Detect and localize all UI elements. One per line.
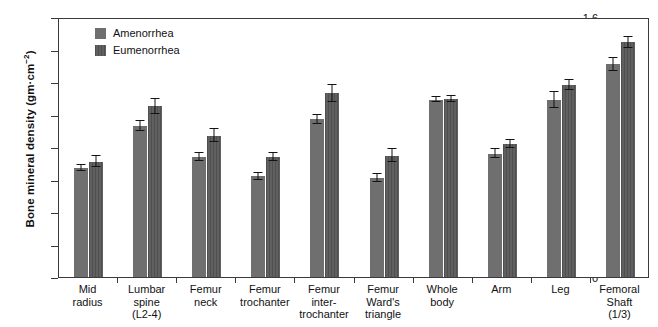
bar-eumenorrhea (562, 85, 576, 277)
error-bar-cap-top (549, 91, 558, 92)
y-tick-mark (51, 148, 58, 149)
error-bar-cap-top (564, 79, 573, 80)
error-bar-cap-top (608, 57, 617, 58)
y-tick-mark (51, 278, 58, 279)
bar-eumenorrhea (148, 106, 162, 277)
legend-label-eumenorrhea: Eumenorrhea (113, 44, 180, 56)
error-bar-cap-bottom (151, 113, 160, 114)
error-bar-cap-top (505, 139, 514, 140)
bone-mineral-density-bar-chart: Bone mineral density (gm·cm−2) 00.20.40.… (0, 0, 658, 327)
legend-label-amenorrhea: Amenorrhea (113, 27, 174, 39)
bar-eumenorrhea (325, 93, 339, 277)
bar-amenorrhea (74, 168, 88, 277)
error-bar-cap-top (313, 114, 322, 115)
error-bar-cap-top (372, 173, 381, 174)
error-bar-cap-top (328, 84, 337, 85)
error-bar-cap-bottom (549, 107, 558, 108)
y-tick-mark (51, 116, 58, 117)
error-bar-cap-top (431, 96, 440, 97)
legend-swatch-eumenorrhea-icon (95, 45, 106, 56)
error-bar-cap-top (269, 152, 278, 153)
error-bar-cap-bottom (210, 141, 219, 142)
bar-eumenorrhea (207, 136, 221, 277)
y-tick-mark (51, 213, 58, 214)
bar-amenorrhea (133, 126, 147, 277)
error-bar-cap-bottom (313, 123, 322, 124)
error-bar-stem (332, 85, 333, 101)
bar-eumenorrhea (444, 99, 458, 277)
legend-item-eumenorrhea: Eumenorrhea (95, 44, 180, 56)
bar-amenorrhea (251, 176, 265, 277)
bar-amenorrhea (429, 100, 443, 277)
bar-group (370, 17, 399, 277)
bar-group (310, 17, 339, 277)
error-bar-cap-bottom (136, 130, 145, 131)
bar-group (606, 17, 635, 277)
error-bar-cap-top (136, 120, 145, 121)
error-bar-cap-bottom (328, 101, 337, 102)
error-bar-cap-bottom (446, 101, 455, 102)
error-bar-cap-bottom (269, 160, 278, 161)
y-axis-title-suffix: ) (24, 50, 36, 54)
y-tick-mark (51, 83, 58, 84)
y-tick-mark (51, 51, 58, 52)
error-bar-cap-top (151, 98, 160, 99)
error-bar-cap-bottom (77, 170, 86, 171)
x-axis-label: Femoral Shaft (1/3) (584, 283, 655, 321)
bar-group (547, 17, 576, 277)
error-bar-stem (155, 99, 156, 114)
error-bar-cap-bottom (608, 70, 617, 71)
bar-eumenorrhea (385, 156, 399, 277)
bar-amenorrhea (370, 178, 384, 277)
error-bar-cap-bottom (92, 166, 101, 167)
legend-item-amenorrhea: Amenorrhea (95, 27, 180, 39)
error-bar-cap-bottom (431, 101, 440, 102)
bar-group (192, 17, 221, 277)
error-bar-cap-bottom (195, 160, 204, 161)
y-tick-mark (51, 181, 58, 182)
bar-group (488, 17, 517, 277)
error-bar-cap-top (195, 152, 204, 153)
bar-amenorrhea (192, 157, 206, 277)
error-bar-cap-bottom (490, 157, 499, 158)
error-bar-cap-bottom (505, 147, 514, 148)
bar-amenorrhea (606, 64, 620, 277)
bar-group (429, 17, 458, 277)
bar-amenorrhea (310, 119, 324, 277)
error-bar-cap-top (623, 36, 632, 37)
error-bar-cap-bottom (254, 179, 263, 180)
bar-amenorrhea (488, 154, 502, 278)
bar-eumenorrhea (503, 144, 517, 277)
error-bar-cap-bottom (564, 89, 573, 90)
legend-swatch-amenorrhea-icon (95, 28, 106, 39)
error-bar-cap-top (77, 164, 86, 165)
bar-eumenorrhea (621, 42, 635, 277)
error-bar-cap-top (387, 148, 396, 149)
bar-eumenorrhea (89, 162, 103, 277)
error-bar-cap-top (92, 155, 101, 156)
error-bar-cap-bottom (387, 161, 396, 162)
error-bar-cap-bottom (623, 47, 632, 48)
error-bar-cap-top (254, 172, 263, 173)
y-axis-title: Bone mineral density (gm·cm−2) (22, 14, 36, 264)
error-bar-cap-top (490, 148, 499, 149)
bar-group (251, 17, 280, 277)
y-tick-mark (51, 246, 58, 247)
error-bar-cap-bottom (372, 181, 381, 182)
error-bar-stem (553, 92, 554, 108)
y-axis-title-exponent: −2 (22, 54, 31, 63)
y-axis-title-main: Bone mineral density (gm·cm (24, 64, 36, 228)
legend: Amenorrhea Eumenorrhea (95, 27, 180, 61)
y-tick-mark (51, 18, 58, 19)
error-bar-cap-top (210, 128, 219, 129)
error-bar-cap-top (446, 95, 455, 96)
bar-eumenorrhea (266, 157, 280, 277)
bar-amenorrhea (547, 100, 561, 277)
